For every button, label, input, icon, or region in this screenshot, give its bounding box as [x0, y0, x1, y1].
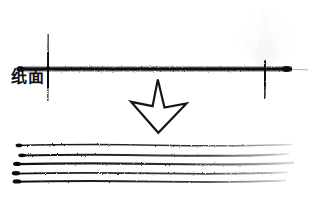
hatch-line-group: [12, 144, 294, 184]
diagram-svg: [0, 0, 316, 201]
hatch-line-start-blob: [13, 179, 22, 183]
hatch-line-start-blob: [12, 171, 20, 175]
hatch-line: [20, 154, 289, 156]
hatch-line-start-blob: [18, 153, 26, 157]
hatch-line: [17, 144, 292, 145]
paper-surface-label: 纸面: [11, 67, 45, 86]
right-end-dot: [282, 66, 291, 72]
left-vertical-tick: [48, 34, 49, 101]
hatch-line: [15, 181, 286, 182]
figure-canvas: 纸面: [0, 0, 316, 201]
hatch-line: [15, 163, 294, 165]
hatch-line-start-blob: [16, 144, 23, 148]
down-arrow-icon: [131, 80, 187, 133]
hatch-line-start-blob: [13, 162, 21, 166]
ink-splatter: [234, 8, 300, 72]
hatch-line: [14, 172, 288, 174]
paper-surface-line-tail: [292, 69, 308, 70]
paper-surface-line-core: [18, 68, 292, 70]
